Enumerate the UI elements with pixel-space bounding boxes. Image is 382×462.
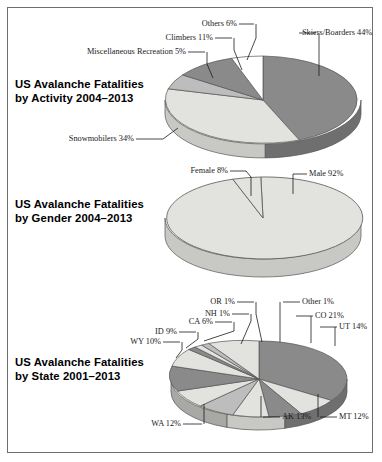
label-misc-recreation: Miscellaneous Recreation 5% [44, 47, 186, 56]
chart-gender: US Avalanche Fatalities by Gender 2004–2… [8, 158, 372, 293]
label-male: Male 92% [309, 169, 343, 178]
label-or: OR 1% [189, 297, 235, 306]
chart-gender-pie [8, 158, 372, 293]
label-snowmobilers: Snowmobilers 34% [50, 134, 134, 143]
label-wa: WA 12% [129, 419, 181, 428]
label-ak: AK 13% [282, 412, 311, 421]
label-wy: WY 10% [109, 337, 161, 346]
label-id: ID 9% [132, 327, 177, 336]
figure-border: US Avalanche Fatalities by Activity 2004… [7, 7, 373, 453]
chart-activity: US Avalanche Fatalities by Activity 2004… [8, 8, 372, 160]
label-other: Other 1% [302, 297, 334, 306]
label-others: Others 6% [165, 19, 237, 28]
label-female: Female 8% [158, 166, 228, 175]
label-climbers: Climbers 11% [138, 33, 213, 42]
chart-state: US Avalanche Fatalities by State 2001–20… [8, 286, 372, 454]
label-ca: CA 6% [167, 317, 213, 326]
label-mt: MT 12% [339, 412, 369, 421]
label-co: CO 21% [315, 311, 344, 320]
label-ut: UT 14% [339, 322, 367, 331]
label-skiers: Skiers/Boarders 44% [302, 28, 372, 37]
